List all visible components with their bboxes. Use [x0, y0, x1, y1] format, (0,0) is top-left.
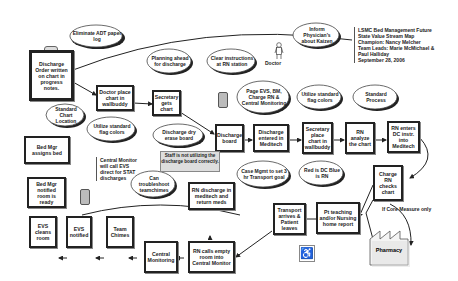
cloud-label: Page EVS, BM, Charge RN & Central Monito… [236, 89, 292, 106]
box-label: Discharge board [217, 132, 242, 144]
cloud-label: Case Mgmt to set 3 hr Transport goal [236, 169, 292, 181]
cloud-label: Utilize standard flag colors [296, 92, 344, 104]
kaizen-cloud-dry-erase-board: Discharge dry erase board [152, 123, 206, 149]
box-label: RN analyze the chart [348, 129, 372, 147]
kaizen-cloud-utilize-flag-colors-2: Utilize standard flag colors [86, 116, 138, 144]
process-charge-rn-checks: Charge RN checks chart [373, 165, 403, 201]
box-label: Team Chimes [109, 226, 131, 238]
cloud-label: Eliminate ADT paper log [68, 31, 126, 43]
cloud-label: Discharge dry erase board [152, 130, 206, 142]
cloud-label: Red is DC Blue is RN [298, 168, 346, 180]
kaizen-cloud-standard-chart-location: Standard Chart Location [45, 103, 87, 129]
doctor-label: Doctor [265, 60, 281, 66]
process-bed-mgr-assigns: Bed Mgr assigns bed [24, 136, 70, 164]
process-doctor-place-chart: Doctor place chart in wallbuddy [96, 85, 134, 111]
cell-phone-icon [218, 92, 228, 108]
process-rn-enters-dc: RN enters DC instr. into Meditech [387, 121, 420, 153]
cloud-label: Clear instructions at RN station [206, 56, 258, 68]
box-label: RN discharge in meditech and return meds [191, 187, 232, 205]
box-label: Transport arrives & Patient leaves [276, 207, 303, 231]
pharmacy-factory-shape [368, 225, 410, 267]
kaizen-cloud-red-blue: Red is DC Blue is RN [298, 160, 346, 188]
cell-phone-icon [80, 189, 90, 205]
box-label: Discharge Order written on chart in prog… [33, 61, 70, 91]
process-discharge-order: Discharge Order written on chart in prog… [29, 50, 74, 101]
kaizen-cloud-standard-process: Standard Process [352, 84, 400, 112]
cloud-label: Planning ahead for discharge [146, 56, 194, 68]
map-header: LSMC Bed Management Future State Value S… [354, 27, 458, 63]
box-label: RN calls empty room into Central Monitor [191, 248, 232, 266]
header-date: September 28, 2006 [358, 57, 458, 63]
box-label: Secretary gets chart [155, 94, 179, 112]
cloud-label: Utilize standard flag colors [86, 124, 138, 136]
box-label: Charge RN checks chart [376, 171, 400, 195]
process-rn-discharge-meditech: RN discharge in meditech and return meds [188, 182, 235, 210]
box-label: Bed Mgr notified room is ready [30, 181, 63, 205]
kaizen-cloud-planning-ahead: Planning ahead for discharge [146, 48, 194, 76]
pharmacy-label: Pharmacy [368, 247, 410, 253]
process-discharge-board: Discharge board [215, 124, 244, 152]
note-label: Staff is not utilizing the discharge boa… [161, 153, 218, 164]
cloud-label: Can troubleshoot teamchimes [130, 176, 178, 193]
box-label: EVS cleans room [32, 223, 54, 241]
box-label: Secretary place chart in wallbuddy [305, 126, 330, 150]
box-label: Discharge entered in Meditech [256, 129, 286, 147]
kaizen-cloud-inform-physicians: Inform Physician's about Kaizen [292, 22, 342, 50]
cloud-label: Standard Process [352, 92, 400, 104]
kaizen-cloud-eliminate-adt: Eliminate ADT paper log [68, 24, 126, 50]
person-icon [274, 42, 284, 60]
cloud-label: Standard Chart Location [45, 107, 87, 124]
factory-icon: Pharmacy [368, 225, 410, 267]
value-stream-map: LSMC Bed Management Future State Value S… [0, 0, 458, 281]
wheelchair-icon: ♿ [299, 245, 315, 262]
process-central-monitoring: Central Monitoring [144, 241, 178, 273]
process-discharge-entered: Discharge entered in Meditech [253, 124, 289, 152]
process-bed-mgr-notified: Bed Mgr notified room is ready [27, 177, 66, 208]
process-secretary-gets-chart: Secretary gets chart [152, 90, 181, 116]
box-label: Doctor place chart in wallbuddy [99, 89, 131, 107]
process-rn-analyze: RN analyze the chart [345, 122, 375, 154]
box-label: Pt teaching and/or Nursing home report [319, 209, 357, 227]
kaizen-cloud-page-evs: Page EVS, BM, Charge RN & Central Monito… [236, 80, 292, 116]
process-evs-notified: EVS notified [66, 216, 92, 248]
process-team-chimes: Team Chimes [106, 216, 134, 248]
kaizen-cloud-clear-instructions: Clear instructions at RN station [206, 48, 258, 76]
note-staff-not-utilizing: Staff is not utilizing the discharge boa… [160, 151, 220, 172]
box-label: EVS notified [69, 226, 89, 238]
box-label: Bed Mgr assigns bed [27, 144, 67, 156]
process-evs-cleans-room: EVS cleans room [29, 216, 57, 248]
process-pt-teaching: Pt teaching and/or Nursing home report [316, 202, 360, 234]
box-label: Central Monitoring [147, 251, 175, 263]
label-core-measure: If Core Measure only [382, 206, 431, 212]
kaizen-cloud-case-mgmt: Case Mgmt to set 3 hr Transport goal [236, 160, 292, 190]
cloud-label: Inform Physician's about Kaizen [292, 27, 342, 44]
kaizen-cloud-utilize-flag-colors: Utilize standard flag colors [296, 84, 344, 112]
process-secretary-place-chart: Secretary place chart in wallbuddy [302, 122, 333, 154]
process-transport-arrives: Transport arrives & Patient leaves [273, 203, 306, 235]
box-label: RN enters DC instr. into Meditech [390, 125, 417, 149]
process-rn-calls-empty-room: RN calls empty room into Central Monitor [188, 241, 235, 273]
